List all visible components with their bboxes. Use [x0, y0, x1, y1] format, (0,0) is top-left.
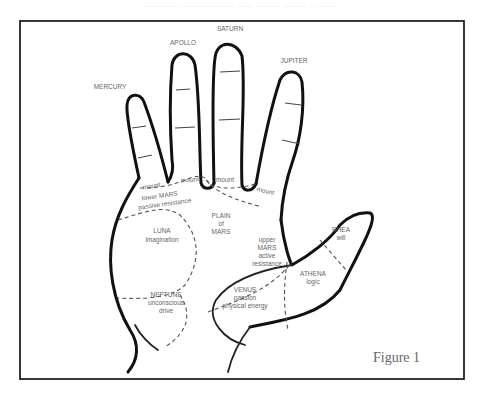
label-upper-mars-trait1: active [259, 252, 276, 259]
label-upper-mars-2: MARS [258, 244, 277, 251]
label-mount-saturn: mount [216, 176, 234, 183]
label-venus-trait2: physical energy [222, 302, 268, 310]
figure-caption: Figure 1 [373, 350, 420, 365]
label-plain-line1: PLAIN [212, 212, 231, 219]
label-upper-mars-1: upper [259, 236, 276, 244]
label-mount-mercury: mount [142, 180, 161, 190]
palm-diagram: MERCURY APOLLO SATURN JUPITER mount moun… [0, 0, 481, 395]
label-venus-trait1: passion [234, 294, 257, 302]
label-rhea-trait: will [335, 234, 346, 241]
label-luna-trait: imagination [145, 236, 179, 244]
label-jupiter: JUPITER [280, 57, 307, 64]
label-mount-apollo: mount [180, 175, 199, 184]
label-neptune-trait1: unconscious [148, 299, 185, 306]
label-luna: LUNA [153, 227, 171, 234]
label-plain-line2: of [218, 220, 224, 227]
label-mount-jupiter: mount [256, 185, 275, 196]
label-rhea: RHEA [332, 226, 351, 233]
label-athena: ATHENA [300, 270, 327, 277]
label-venus: VENUS [234, 286, 257, 293]
label-neptune: NEPTUNE [150, 291, 182, 298]
label-neptune-trait2: drive [159, 307, 173, 314]
label-plain-line3: MARS [212, 228, 231, 235]
label-mercury: MERCURY [94, 83, 127, 90]
label-saturn: SATURN [217, 25, 244, 32]
label-apollo: APOLLO [170, 39, 196, 46]
label-upper-mars-trait2: resistance [252, 260, 282, 267]
label-athena-trait: logic [306, 278, 320, 286]
